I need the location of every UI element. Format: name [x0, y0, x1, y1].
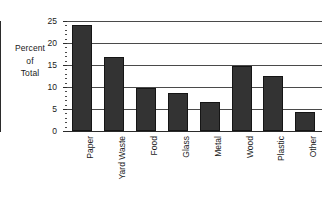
- bar: [263, 76, 283, 131]
- x-axis-label-slot: Metal: [214, 136, 224, 202]
- bar: [295, 112, 315, 131]
- x-axis-label-slot: Other: [309, 136, 319, 202]
- x-axis-label-slot: Plastic: [277, 136, 287, 202]
- y-axis-tick-label: 25: [35, 17, 57, 26]
- x-axis-label: Metal: [214, 136, 223, 157]
- y-axis-line: [0, 21, 1, 132]
- bar: [136, 88, 156, 131]
- y-axis-tick-label: 5: [35, 105, 57, 114]
- x-axis-label-slot: Glass: [182, 136, 192, 202]
- bar: [200, 102, 220, 131]
- y-axis-tick: [63, 131, 67, 132]
- x-axis-label: Plastic: [277, 136, 286, 161]
- x-axis-line: [67, 131, 322, 132]
- x-axis-label: Glass: [182, 136, 191, 158]
- x-axis-label: Yard Waste: [118, 136, 127, 179]
- x-axis-labels: PaperYard WasteFoodGlassMetalWoodPlastic…: [67, 134, 322, 204]
- x-axis-label: Food: [150, 136, 159, 155]
- y-axis-tick-label: 20: [35, 39, 57, 48]
- x-axis-label: Wood: [246, 136, 255, 158]
- x-axis-label: Other: [309, 136, 318, 157]
- x-axis-label-slot: Yard Waste: [118, 136, 128, 202]
- x-axis-label-slot: Food: [150, 136, 160, 202]
- bar: [104, 57, 124, 131]
- bar-chart-figure: Percent of Total 0510152025 PaperYard Wa…: [0, 0, 330, 209]
- x-axis-label-slot: Paper: [86, 136, 96, 202]
- y-axis-tick-label: 10: [35, 83, 57, 92]
- y-axis-tick-label: 0: [35, 127, 57, 136]
- bar: [168, 93, 188, 131]
- x-axis-label: Paper: [86, 136, 95, 159]
- bars-group: [67, 21, 322, 131]
- y-axis-tick-label: 15: [35, 61, 57, 70]
- bar: [72, 25, 92, 131]
- x-axis-label-slot: Wood: [246, 136, 256, 202]
- bar: [232, 66, 252, 131]
